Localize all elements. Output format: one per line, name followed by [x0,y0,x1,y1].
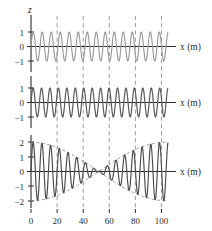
panel2-ytick-label-0: 0 [20,98,25,108]
panel3-ytick-label-minus1: −1 [14,182,24,192]
wave-superposition-figure: 1 0 −1 z x (m) 1 0 −1 x (m) [0,0,212,231]
panel3-ytick-label-minus2: −2 [14,197,24,207]
xtick-label-20: 20 [53,216,63,226]
figure-svg: 1 0 −1 z x (m) 1 0 −1 x (m) [0,0,212,231]
panel2-x-axis-label: x (m) [180,98,201,109]
xtick-label-100: 100 [155,216,169,226]
panel1-x-axis-label: x (m) [180,42,201,53]
panel3-ytick-label-1: 1 [20,153,25,163]
panel3-x-axis-label: x (m) [180,167,201,178]
panel3-ytick-label-0: 0 [20,167,25,177]
panel1-ytick-label-0: 0 [20,42,25,52]
panel1-ytick-label-1: 1 [20,28,25,38]
panel1-y-axis-title: z [27,5,32,15]
panel3-ytick-label-2: 2 [20,138,25,148]
xtick-label-60: 60 [105,216,115,226]
xtick-label-40: 40 [79,216,89,226]
xtick-label-0: 0 [29,216,34,226]
panel2-ytick-label-1: 1 [20,84,25,94]
panel2-ytick-label-minus1: −1 [14,113,24,123]
xtick-label-80: 80 [131,216,141,226]
panel1-ytick-label-minus1: −1 [14,57,24,67]
